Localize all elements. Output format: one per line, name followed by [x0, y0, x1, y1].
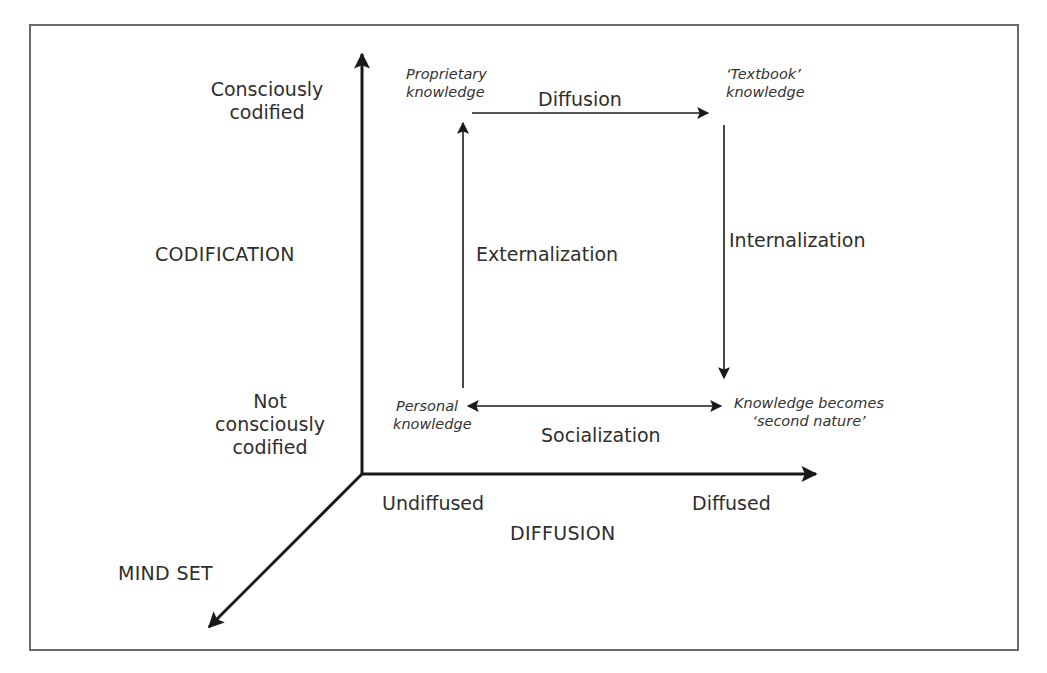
mindset-axis — [209, 474, 362, 627]
not-consciously-codified-label: Not consciously codified — [200, 390, 340, 458]
consciously-codified-label: Consciously codified — [192, 78, 342, 124]
undiffused-label: Undiffused — [382, 492, 484, 515]
second-nature-line-2: ‘second nature’ — [724, 412, 894, 430]
consciously-codified-line-1: Consciously — [192, 78, 342, 101]
proprietary-knowledge-node: Proprietary knowledge — [406, 65, 487, 101]
proprietary-line-1: Proprietary — [406, 65, 487, 83]
codification-axis-title: CODIFICATION — [155, 243, 295, 266]
personal-line-1: Personal — [393, 397, 461, 415]
textbook-knowledge-node: ‘Textbook’ knowledge — [726, 65, 805, 101]
textbook-line-2: knowledge — [726, 83, 805, 101]
second-nature-line-1: Knowledge becomes — [724, 394, 894, 412]
personal-line-2: knowledge — [393, 415, 461, 433]
not-codified-line-2: consciously — [200, 413, 340, 436]
not-codified-line-3: codified — [200, 436, 340, 459]
diffusion-axis-title: DIFFUSION — [510, 522, 616, 545]
externalization-process-label: Externalization — [476, 243, 618, 266]
not-codified-line-1: Not — [200, 390, 340, 413]
personal-knowledge-node: Personal knowledge — [393, 397, 461, 433]
proprietary-line-2: knowledge — [406, 83, 487, 101]
diffusion-process-label: Diffusion — [538, 88, 622, 111]
consciously-codified-line-2: codified — [192, 101, 342, 124]
diffused-label: Diffused — [692, 492, 771, 515]
second-nature-node: Knowledge becomes ‘second nature’ — [724, 394, 894, 430]
socialization-process-label: Socialization — [541, 424, 661, 447]
internalization-process-label: Internalization — [729, 229, 866, 252]
mindset-axis-title: MIND SET — [118, 562, 213, 585]
textbook-line-1: ‘Textbook’ — [726, 65, 805, 83]
